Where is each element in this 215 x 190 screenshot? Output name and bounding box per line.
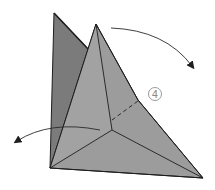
- step-marker: 4: [149, 88, 162, 101]
- origami-diagram: 4: [0, 0, 215, 190]
- step-number: 4: [152, 89, 158, 100]
- fold-arrow-right: [111, 28, 192, 66]
